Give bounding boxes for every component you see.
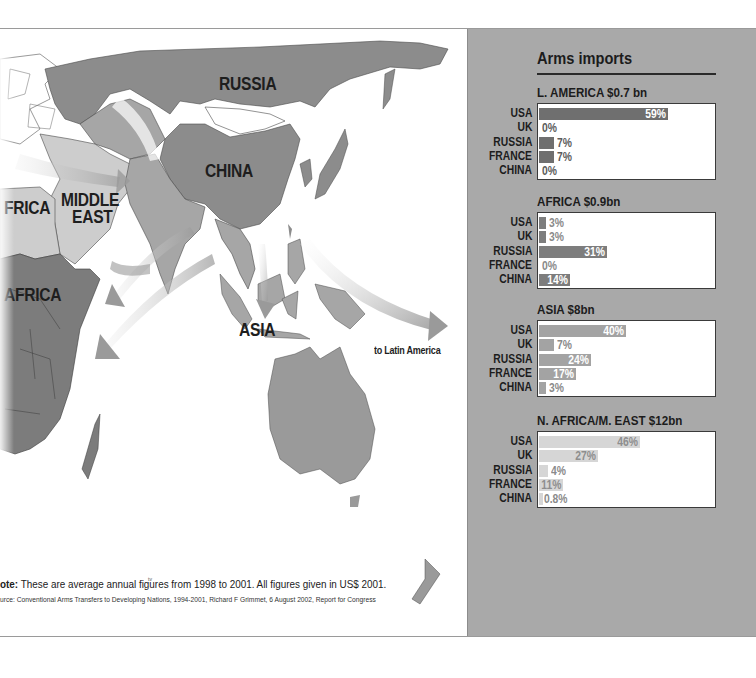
- category-label-france: FRANCE: [489, 477, 532, 491]
- category-label-uk: UK: [517, 229, 532, 243]
- category-label-france: FRANCE: [489, 366, 532, 380]
- value-label-china: 0%: [542, 165, 557, 177]
- bar-uk: [539, 231, 546, 243]
- footnote-text: These are average annual figures from 19…: [18, 578, 386, 590]
- value-label-france: 11%: [541, 479, 561, 491]
- value-label-uk: 3%: [549, 231, 564, 243]
- bar-china: [539, 382, 546, 394]
- bar-china: [539, 493, 543, 505]
- map: tv RUSSIA CHINA MIDDLE EAST FRICA AFRICA…: [0, 29, 467, 636]
- value-label-france: 7%: [557, 151, 572, 163]
- category-label-usa: USA: [510, 215, 532, 229]
- label-asia: ASIA: [239, 320, 275, 339]
- value-label-france: 0%: [542, 260, 557, 272]
- value-label-russia: 24%: [568, 354, 589, 366]
- label-china: CHINA: [205, 161, 253, 180]
- left-edge-fade: [0, 29, 14, 636]
- value-label-russia: 31%: [584, 246, 605, 258]
- category-label-china: CHINA: [499, 491, 532, 505]
- category-label-france: FRANCE: [489, 258, 532, 272]
- source-citation: urce: Conventional Arms Transfers to Dev…: [0, 595, 376, 604]
- category-label-usa: USA: [510, 323, 532, 337]
- category-label-usa: USA: [510, 106, 532, 120]
- category-label-russia: RUSSIA: [493, 244, 532, 258]
- chart-title: N. AFRICA/M. EAST $12bn: [537, 413, 682, 428]
- category-label-china: CHINA: [499, 380, 532, 394]
- chart-title: ASIA $8bn: [537, 302, 595, 317]
- arms-imports-panel: Arms imports L. AMERICA $0.7 bn 59%0%7%7…: [467, 29, 756, 636]
- value-label-usa: 59%: [645, 108, 666, 120]
- bar-russia: [539, 465, 548, 477]
- map-graphic: tv: [0, 29, 467, 636]
- category-label-china: CHINA: [499, 163, 532, 177]
- chart-plot-area: 3%3%31%0%14%: [537, 212, 716, 289]
- panel-title: Arms imports: [537, 49, 632, 69]
- category-label-russia: RUSSIA: [493, 352, 532, 366]
- value-label-uk: 0%: [542, 122, 557, 134]
- value-label-china: 0.8%: [544, 493, 568, 505]
- value-label-china: 14%: [547, 274, 568, 286]
- bar-uk: [539, 339, 554, 351]
- footnote: ote: These are average annual figures fr…: [0, 578, 386, 590]
- value-label-usa: 3%: [549, 217, 564, 229]
- footnote-label: ote:: [0, 578, 18, 590]
- chart-title: L. AMERICA $0.7 bn: [537, 85, 647, 100]
- label-middle-east-line2: EAST: [72, 207, 113, 226]
- label-russia: RUSSIA: [219, 74, 276, 93]
- value-label-uk: 27%: [575, 450, 596, 462]
- category-label-uk: UK: [517, 120, 532, 134]
- title-divider: [537, 73, 716, 75]
- chart-title: AFRICA $0.9bn: [537, 194, 620, 209]
- category-label-france: FRANCE: [489, 149, 532, 163]
- chart-plot-area: 59%0%7%7%0%: [537, 103, 716, 180]
- value-label-usa: 40%: [603, 325, 624, 337]
- category-label-uk: UK: [517, 337, 532, 351]
- value-label-france: 17%: [553, 368, 574, 380]
- chart-plot-area: 40%7%24%17%3%: [537, 320, 716, 397]
- category-label-uk: UK: [517, 448, 532, 462]
- bar-usa: [539, 217, 546, 229]
- category-label-china: CHINA: [499, 272, 532, 286]
- value-label-russia: 4%: [551, 465, 566, 477]
- value-label-usa: 46%: [617, 436, 638, 448]
- label-to-latin-america: to Latin America: [374, 345, 440, 356]
- bar-france: [539, 151, 554, 163]
- category-label-russia: RUSSIA: [493, 463, 532, 477]
- bar-russia: [539, 137, 554, 149]
- category-label-usa: USA: [510, 434, 532, 448]
- category-label-russia: RUSSIA: [493, 135, 532, 149]
- chart-plot-area: 46%27%4%11%0.8%: [537, 431, 716, 508]
- value-label-china: 3%: [549, 382, 564, 394]
- value-label-russia: 7%: [557, 137, 572, 149]
- value-label-uk: 7%: [557, 339, 572, 351]
